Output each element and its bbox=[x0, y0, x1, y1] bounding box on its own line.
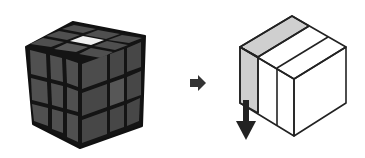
cube-left-face bbox=[30, 50, 78, 142]
highlighted-slice-top bbox=[240, 16, 309, 57]
rubiks-cube bbox=[26, 22, 145, 148]
diagram-canvas bbox=[0, 0, 365, 158]
arrow-right-icon bbox=[190, 75, 206, 91]
diagram-stage bbox=[0, 0, 365, 158]
cube-slice-diagram bbox=[240, 16, 346, 136]
